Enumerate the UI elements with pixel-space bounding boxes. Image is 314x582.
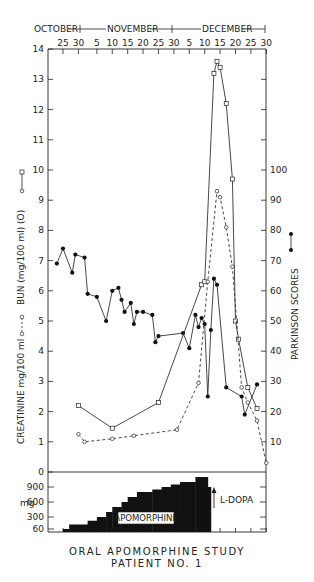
x-tick-label: 30 <box>73 38 85 48</box>
left-axis-legend: BUN (mg/100 ml) (O) CREATININE mg/100 ml <box>16 170 26 444</box>
left-tick-label: 11 <box>33 135 44 145</box>
left-tick-label: 8 <box>38 225 44 235</box>
dose-tick-label: 600 <box>27 497 44 507</box>
left-tick-label: 6 <box>38 286 44 296</box>
data-series <box>55 59 268 464</box>
right-tick-label: 20 <box>270 407 282 417</box>
left-tick-label: 3 <box>38 376 44 386</box>
right-tick-label: 40 <box>270 346 282 356</box>
x-tick-label: 25 <box>245 38 256 48</box>
x-tick-label: 5 <box>186 38 192 48</box>
right-tick-label: 100 <box>270 165 287 175</box>
left-tick-label: 14 <box>33 44 45 54</box>
chart-subtitle: PATIENT NO. 1 <box>0 558 314 569</box>
parkinson-axis-label: PARKINSON SCORES <box>290 268 300 360</box>
left-tick-label: 10 <box>33 165 45 175</box>
x-tick-labels: 25305101520253051015202530 <box>57 38 272 532</box>
left-tick-label: 9 <box>38 195 44 205</box>
x-tick-label: 20 <box>230 38 242 48</box>
apomorphine-study-chart: OCTOBER NOVEMBER DECEMBER 25305101520253… <box>0 0 314 582</box>
creatinine-axis-label: CREATININE mg/100 ml <box>16 339 26 444</box>
series-open-square <box>76 59 259 430</box>
right-tick-label: 70 <box>270 256 282 266</box>
bun-axis-label: BUN (mg/100 ml) (O) <box>16 210 26 305</box>
svg-text:L-DOPA: L-DOPA <box>220 495 254 505</box>
left-tick-label: 0 <box>38 467 44 477</box>
chart-title: ORAL APOMORPHINE STUDY <box>0 546 314 557</box>
axes-frame <box>48 49 266 532</box>
dose-tick-label: 300 <box>27 512 44 522</box>
left-tick-label: 7 <box>38 256 44 266</box>
right-tick-label: 80 <box>270 225 282 235</box>
x-tick-label: 10 <box>199 38 211 48</box>
x-tick-label: 10 <box>107 38 119 48</box>
left-tick-label: 1 <box>38 437 44 447</box>
x-tick-label: 5 <box>94 38 100 48</box>
left-y-axis: 01234567891011121314 <box>33 44 53 477</box>
dose-tick-label: 60 <box>33 524 45 534</box>
series-filled-circle <box>55 246 259 416</box>
right-tick-label: 50 <box>270 316 282 326</box>
left-tick-label: 12 <box>33 105 44 115</box>
x-tick-label: 15 <box>122 38 133 48</box>
dose-tick-label: 900 <box>27 482 44 492</box>
x-tick-label: 25 <box>57 38 68 48</box>
right-axis-legend: PARKINSON SCORES <box>289 232 300 360</box>
right-tick-label: 60 <box>270 286 282 296</box>
left-tick-label: 2 <box>38 407 44 417</box>
right-tick-label: 30 <box>270 376 282 386</box>
left-tick-label: 5 <box>38 316 44 326</box>
month-header: OCTOBER NOVEMBER DECEMBER <box>34 24 265 34</box>
x-tick-label: 25 <box>153 38 164 48</box>
x-tick-label: 30 <box>261 38 273 48</box>
left-tick-label: 4 <box>38 346 44 356</box>
right-tick-label: 10 <box>270 437 282 447</box>
x-tick-label: 15 <box>214 38 225 48</box>
right-y-axis: 102030405060708090100 <box>261 79 287 446</box>
right-tick-label: 90 <box>270 195 282 205</box>
left-tick-label: 13 <box>33 74 44 84</box>
ldopa-annotation: L-DOPA <box>212 487 254 508</box>
apomorphine-label: APOMORPHINE <box>114 512 177 524</box>
x-tick-label: 20 <box>137 38 149 48</box>
svg-text:APOMORPHINE: APOMORPHINE <box>114 513 177 523</box>
x-tick-label: 30 <box>168 38 180 48</box>
